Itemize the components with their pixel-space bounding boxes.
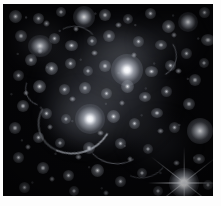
galaxy-faint [131,52,137,58]
galaxy-member [189,74,201,86]
galaxy-member [65,40,78,51]
galaxy-member [99,60,111,72]
image-frame: galaxy cluster with gravitational lensin… [0,0,221,206]
galaxy-faint [127,156,133,162]
background-noise-layer [3,4,213,196]
galaxy-faint [69,96,76,102]
galaxy-member [121,80,134,93]
galaxy-east-elliptical [187,118,213,144]
galaxy-member [181,48,192,59]
intracluster-light-west [11,16,73,68]
galaxy-member [56,7,66,17]
galaxy-member [139,92,151,102]
galaxy-faint [157,128,164,134]
intracluster-light-southeast [123,112,195,172]
galaxy-faint [47,124,53,130]
galaxy-faint [75,154,82,160]
galaxy-member [151,108,163,118]
galaxy-member [33,132,44,143]
vignette-overlay [3,4,213,196]
galaxy-member [19,182,30,193]
galaxy-member [41,108,52,119]
intracluster-light-east [135,14,199,68]
galaxy-member [63,170,74,181]
galaxy-member [33,13,44,24]
galaxy-faint [49,176,55,182]
galaxy-faint [37,48,43,54]
lensing-arc-southern [84,118,145,167]
galaxy-north-elliptical [73,6,95,28]
galaxy-faint [73,26,79,32]
galaxy-northeast-elliptical [178,12,198,32]
galaxy-member [143,144,153,154]
galaxy-member [165,60,176,71]
galaxy-member [59,84,70,95]
galaxy-faint [103,190,109,196]
galaxy-member [201,34,213,46]
sky-field [3,4,213,196]
intracluster-light-central [42,32,172,152]
galaxy-member [87,36,97,46]
galaxy-member [37,162,49,174]
galaxy-faint [119,100,125,106]
galaxy-member [17,100,29,112]
intracluster-light-north [84,19,162,85]
lensing-arc-giant-tangential [29,78,122,164]
galaxy-faint [115,22,122,28]
galaxy-member [83,66,93,76]
galaxy-member [25,54,37,66]
image-viewport: galaxy cluster with gravitational lensin… [0,0,221,206]
galaxy-faint [173,160,180,166]
galaxy-faint [43,20,50,27]
lensing-arclet-southeast [118,139,171,183]
galaxy-member [203,180,213,190]
star-diffraction-spike-vertical [183,147,184,196]
galaxy-member [162,20,175,33]
star-diffraction-spike-diagonal-a [151,156,213,196]
galaxy-member [145,8,156,19]
star-diffraction-spike-horizontal [148,182,213,183]
galaxy-faint [91,50,98,56]
galaxy-member [115,138,126,149]
galaxy-member [123,14,133,24]
galaxy-member [45,62,58,75]
galaxy-faint [171,32,177,38]
galaxy-member [49,33,60,44]
galaxy-member [133,36,144,47]
galaxy-member [137,168,147,178]
galaxy-member [161,86,172,97]
galaxy-member [115,176,126,187]
galaxy-member [155,40,167,50]
galaxy-member [83,142,95,154]
galaxy-faint [25,144,31,150]
galaxy-member [65,58,76,69]
galaxy-member [13,70,24,81]
lensing-arclet-north [53,23,100,62]
galaxy-member [101,88,112,99]
galaxy-northwest-elliptical [28,35,52,57]
galaxy-member [193,154,205,164]
galaxy-member [103,30,115,42]
galaxy-member [69,186,79,196]
galaxy-member [169,122,180,133]
galaxy-member [99,9,111,21]
galaxy-second-dominant [75,104,105,134]
lensing-arclet-western [19,63,69,112]
galaxy-member [145,66,158,77]
galaxy-member [107,110,120,123]
star-diffraction-spike-diagonal-b [151,156,213,196]
galaxy-member [153,186,163,196]
galaxy-member [9,122,21,134]
galaxy-member [61,114,71,124]
galaxy-member [79,82,91,94]
galaxy-member [13,152,24,163]
galaxy-brightest-cluster-galaxy [111,54,143,86]
galaxy-member [129,118,140,129]
galaxy-member [183,98,195,110]
galaxy-member [9,10,22,23]
galaxy-member [33,80,46,93]
galaxy-member [55,138,65,148]
galaxy-member [199,58,209,68]
star-foreground-bright [169,168,199,196]
galaxy-member [15,30,27,42]
